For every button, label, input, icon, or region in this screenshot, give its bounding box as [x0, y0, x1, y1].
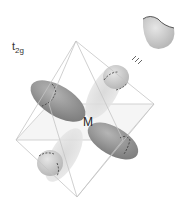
t2g-label: t2g — [12, 40, 24, 55]
t2g-orbital-diagram — [0, 0, 187, 207]
half-lobe-icon — [143, 17, 175, 50]
equivalence-marks-icon — [132, 56, 142, 64]
t2g-subscript: 2g — [15, 46, 24, 55]
metal-center-label: M — [83, 115, 93, 129]
